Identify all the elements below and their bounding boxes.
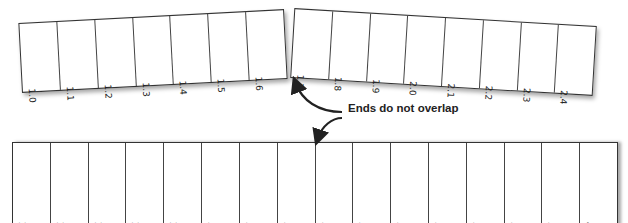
arrows <box>0 0 628 223</box>
arrow-down-icon <box>318 118 342 138</box>
annotation-label: Ends do not overlap <box>348 102 459 114</box>
arrow-up-icon <box>296 84 342 112</box>
